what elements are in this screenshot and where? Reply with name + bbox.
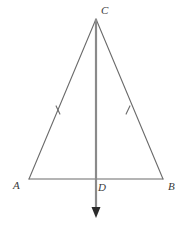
- geometry-figure: [0, 0, 183, 227]
- vertex-label-d: D: [98, 182, 106, 193]
- figure-background: [0, 0, 183, 227]
- vertex-label-c: C: [101, 5, 108, 16]
- vertex-label-b: B: [168, 181, 175, 192]
- vertex-label-a: A: [13, 180, 20, 191]
